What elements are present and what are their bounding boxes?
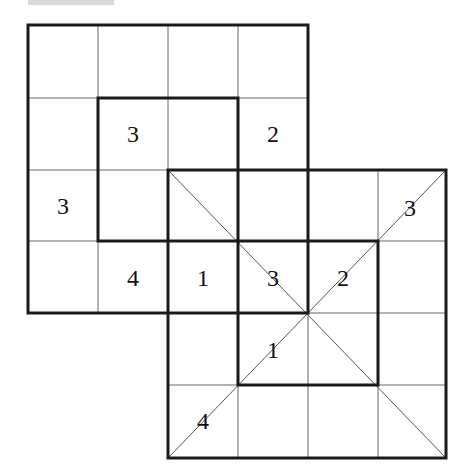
clue-cell: 1 [253, 330, 293, 370]
clue-cell: 3 [113, 114, 153, 154]
clue-cell: 2 [253, 114, 293, 154]
clue-cell: 4 [183, 401, 223, 441]
clue-cell: 3 [43, 186, 83, 226]
puzzle-grid [0, 0, 468, 474]
clue-cell: 3 [390, 188, 430, 228]
clue-cell: 4 [113, 258, 153, 298]
clue-cell: 2 [323, 258, 363, 298]
clue-cell: 1 [183, 258, 223, 298]
clue-cell: 3 [253, 258, 293, 298]
